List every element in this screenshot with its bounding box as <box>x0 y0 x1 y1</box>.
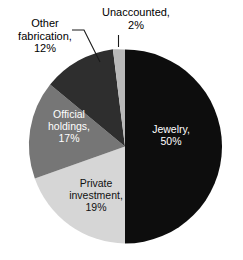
pie-chart-figure: Unaccounted, 2% Other fabrication, 12% J… <box>0 0 243 260</box>
pie-label-unaccounted-value: 2% <box>84 19 188 32</box>
pie-label-unaccounted-line1: Unaccounted, <box>84 6 188 19</box>
pie-label-other-fabrication-line1: Other <box>2 17 88 30</box>
pie-label-other-fabrication-value: 12% <box>2 42 88 55</box>
pie-label-other-fabrication: Other fabrication, 12% <box>2 17 88 55</box>
pie-label-other-fabrication-line2: fabrication, <box>2 30 88 43</box>
pie-label-unaccounted: Unaccounted, 2% <box>84 6 188 31</box>
pie-slice-jewelry[interactable] <box>125 50 222 244</box>
